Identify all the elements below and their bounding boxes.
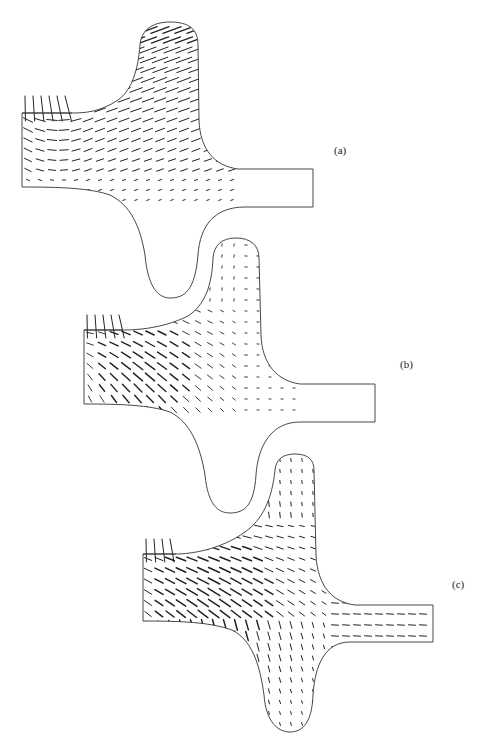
velocity-vector (147, 655, 149, 661)
velocity-vector (87, 322, 93, 323)
velocity-vector (299, 558, 305, 560)
velocity-vector (246, 666, 248, 673)
velocity-vector (176, 557, 185, 561)
velocity-vector (32, 69, 47, 71)
velocity-vector (246, 688, 247, 693)
velocity-vector (225, 67, 239, 72)
velocity-vector (280, 723, 281, 726)
velocity-vector (208, 343, 213, 346)
inlet-vector (111, 315, 115, 338)
velocity-vector (167, 108, 178, 112)
velocity-vector (88, 374, 93, 380)
velocity-vector (39, 190, 42, 191)
velocity-vector (23, 118, 32, 123)
velocity-vector (208, 397, 212, 401)
velocity-vector (269, 712, 270, 715)
velocity-vector (191, 688, 193, 694)
velocity-vector (158, 677, 159, 682)
velocity-vector (71, 119, 81, 122)
velocity-vector (219, 200, 221, 201)
velocity-vector (195, 321, 200, 324)
velocity-vector (203, 128, 212, 131)
velocity-vector (46, 89, 59, 92)
velocity-vector (183, 190, 186, 191)
velocity-vector (191, 677, 193, 683)
velocity-vector (22, 109, 33, 110)
velocity-vector (235, 665, 237, 672)
velocity-vector (145, 547, 152, 549)
velocity-vector (44, 58, 60, 61)
velocity-vector (141, 78, 154, 83)
velocity-vector (277, 525, 283, 526)
velocity-vector (213, 642, 216, 651)
velocity-vector (177, 78, 190, 83)
velocity-vector (158, 643, 160, 650)
velocity-vector (71, 129, 81, 132)
velocity-vector (257, 700, 258, 704)
velocity-vector (31, 29, 50, 32)
velocity-vector (203, 108, 214, 112)
velocity-vector (247, 480, 248, 484)
velocity-vector (324, 656, 325, 659)
velocity-vector (236, 490, 237, 495)
velocity-vector (37, 169, 44, 171)
velocity-vector (166, 547, 174, 550)
velocity-vector (202, 88, 214, 93)
velocity-vector (147, 632, 149, 639)
velocity-vector (220, 343, 224, 345)
velocity-vector (183, 342, 190, 346)
velocity-vector (166, 589, 175, 594)
velocity-vector (231, 578, 241, 584)
velocity-vector (55, 27, 74, 32)
velocity-vector (31, 39, 49, 42)
velocity-vector (210, 536, 219, 538)
velocity-vector (44, 48, 61, 52)
velocity-vector (122, 384, 129, 392)
velocity-vector (228, 138, 237, 141)
velocity-vector (171, 190, 174, 191)
velocity-vector (254, 589, 263, 594)
velocity-vector (19, 39, 37, 41)
velocity-vector (225, 78, 238, 83)
velocity-vector (221, 536, 230, 538)
velocity-vector (247, 491, 248, 496)
velocity-vector (181, 169, 188, 171)
velocity-vector (176, 578, 186, 583)
velocity-vector (201, 67, 215, 72)
velocity-vector (217, 169, 224, 171)
velocity-vector (299, 569, 305, 572)
velocity-vector (220, 354, 224, 357)
velocity-vector (254, 579, 263, 584)
velocity-vector (122, 342, 131, 346)
velocity-vector (299, 580, 305, 583)
velocity-vector (99, 332, 106, 334)
velocity-vector (211, 37, 228, 43)
velocity-vector (184, 407, 189, 412)
velocity-vector (224, 57, 239, 63)
velocity-vector (168, 149, 176, 152)
velocity-vector (109, 169, 116, 171)
velocity-vector (311, 547, 316, 549)
velocity-vector (190, 88, 202, 93)
velocity-vector (58, 88, 71, 92)
velocity-vector (179, 128, 188, 131)
velocity-vector (72, 159, 80, 161)
velocity-vector (195, 190, 198, 191)
velocity-vector (170, 352, 178, 357)
velocity-vector (233, 398, 236, 400)
velocity-vector (202, 688, 204, 694)
velocity-vector (213, 665, 215, 672)
velocity-vector (99, 311, 105, 312)
velocity-vector (224, 677, 226, 684)
velocity-vector (198, 599, 209, 606)
velocity-vector (158, 352, 167, 358)
velocity-vector (20, 69, 35, 71)
velocity-vector (180, 631, 183, 640)
velocity-vector (288, 590, 294, 594)
velocity-vector (145, 525, 151, 526)
velocity-vector (195, 364, 201, 368)
velocity-vector (170, 491, 171, 496)
velocity-vector (311, 601, 316, 604)
velocity-vector (204, 159, 211, 162)
velocity-vector (224, 631, 227, 641)
